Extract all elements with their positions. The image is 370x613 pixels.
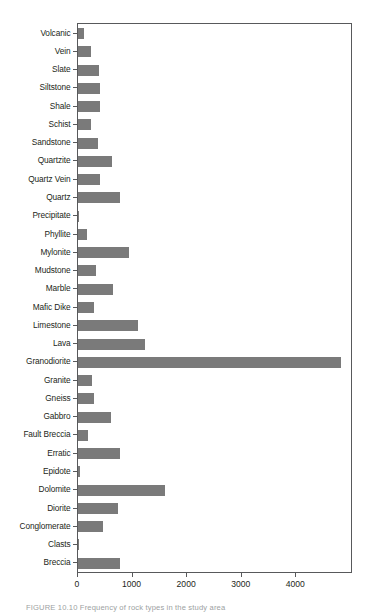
- y-axis-tick-mark: [73, 562, 77, 563]
- y-axis-tick-quartz: Quartz: [0, 188, 77, 206]
- y-axis-tick-label: Schist: [49, 120, 71, 129]
- bar-row: [78, 481, 352, 499]
- y-axis-tick-label: Dolomite: [39, 485, 71, 494]
- bar-quartz: [78, 192, 120, 203]
- y-axis-tick-mark: [73, 215, 77, 216]
- y-axis-tick-mark: [73, 234, 77, 235]
- y-axis-tick-shale: Shale: [0, 97, 77, 115]
- y-axis-tick-volcanic: Volcanic: [0, 24, 77, 42]
- x-axis-tick-label: 4000: [286, 579, 305, 589]
- y-axis-tick-quartzite: Quartzite: [0, 152, 77, 170]
- y-axis-tick-mark: [73, 544, 77, 545]
- y-axis-tick-label: Gabbro: [43, 412, 70, 421]
- y-axis-tick-schist: Schist: [0, 115, 77, 133]
- bar-lava: [78, 339, 145, 350]
- y-axis-tick-mark: [73, 124, 77, 125]
- bar-row: [78, 499, 352, 517]
- x-axis-tick-mark: [241, 573, 242, 577]
- bar-row: [78, 225, 352, 243]
- y-axis-tick-mark: [73, 307, 77, 308]
- bar-breccia: [78, 558, 120, 569]
- y-axis-tick-dolomite: Dolomite: [0, 481, 77, 499]
- y-axis-tick-label: Quartz Vein: [28, 175, 70, 184]
- y-axis-tick-label: Sandstone: [32, 138, 71, 147]
- y-axis: VolcanicVeinSlateSiltstoneShaleSchistSan…: [0, 24, 77, 572]
- bar-row: [78, 462, 352, 480]
- x-axis-tick-mark: [132, 573, 133, 577]
- bar-row: [78, 79, 352, 97]
- x-axis-tick-label: 1000: [122, 579, 141, 589]
- y-axis-tick-precipitate: Precipitate: [0, 207, 77, 225]
- bar-row: [78, 24, 352, 42]
- y-axis-tick-sandstone: Sandstone: [0, 134, 77, 152]
- bar-row: [78, 115, 352, 133]
- y-axis-tick-mark: [73, 361, 77, 362]
- y-axis-tick-label: Shale: [50, 102, 71, 111]
- y-axis-tick-label: Clasts: [48, 540, 70, 549]
- bar-row: [78, 97, 352, 115]
- y-axis-tick-label: Diorite: [47, 504, 70, 513]
- y-axis-tick-slate: Slate: [0, 61, 77, 79]
- bar-slate: [78, 65, 99, 76]
- y-axis-tick-gabbro: Gabbro: [0, 408, 77, 426]
- y-axis-tick-mylonite: Mylonite: [0, 243, 77, 261]
- bar-sandstone: [78, 138, 98, 149]
- bar-epidote: [78, 466, 80, 477]
- y-axis-tick-clasts: Clasts: [0, 535, 77, 553]
- y-axis-tick-breccia: Breccia: [0, 554, 77, 572]
- bar-row: [78, 389, 352, 407]
- y-axis-tick-label: Conglomerate: [20, 522, 71, 531]
- y-axis-tick-mark: [73, 416, 77, 417]
- y-axis-tick-mark: [73, 526, 77, 527]
- y-axis-tick-label: Fault Breccia: [23, 430, 70, 439]
- bar-row: [78, 426, 352, 444]
- bar-row: [78, 517, 352, 535]
- y-axis-tick-label: Volcanic: [40, 29, 70, 38]
- bar-row: [78, 444, 352, 462]
- y-axis-tick-mark: [73, 160, 77, 161]
- bar-row: [78, 298, 352, 316]
- y-axis-tick-epidote: Epidote: [0, 462, 77, 480]
- bar-quartzite: [78, 156, 112, 167]
- y-axis-tick-label: Lava: [53, 339, 71, 348]
- bar-erratic: [78, 448, 120, 459]
- y-axis-tick-label: Slate: [52, 65, 70, 74]
- y-axis-tick-mark: [73, 434, 77, 435]
- y-axis-tick-label: Mylonite: [40, 248, 70, 257]
- bar-conglomerate: [78, 521, 103, 532]
- x-axis-tick-label: 3000: [231, 579, 250, 589]
- x-axis-tick-label: 0: [75, 579, 80, 589]
- y-axis-tick-label: Epidote: [43, 467, 70, 476]
- y-axis-tick-lava: Lava: [0, 335, 77, 353]
- bar-row: [78, 188, 352, 206]
- y-axis-tick-mark: [73, 380, 77, 381]
- y-axis-tick-label: Granodiorite: [26, 357, 70, 366]
- bar-marble: [78, 284, 113, 295]
- y-axis-tick-granodiorite: Granodiorite: [0, 353, 77, 371]
- bar-quartz-vein: [78, 174, 100, 185]
- y-axis-tick-limestone: Limestone: [0, 316, 77, 334]
- bar-volcanic: [78, 28, 84, 39]
- x-axis-tick-mark: [186, 573, 187, 577]
- bar-gabbro: [78, 412, 111, 423]
- y-axis-tick-mark: [73, 453, 77, 454]
- x-axis-tick-mark: [295, 573, 296, 577]
- bar-mafic-dike: [78, 302, 94, 313]
- y-axis-tick-label: Siltstone: [40, 83, 71, 92]
- y-axis-tick-label: Mafic Dike: [33, 303, 71, 312]
- bar-row: [78, 243, 352, 261]
- x-axis-tick-mark: [77, 573, 78, 577]
- y-axis-tick-mark: [73, 343, 77, 344]
- y-axis-tick-label: Vein: [55, 47, 71, 56]
- y-axis-tick-phyllite: Phyllite: [0, 225, 77, 243]
- y-axis-tick-fault-breccia: Fault Breccia: [0, 426, 77, 444]
- y-axis-tick-erratic: Erratic: [0, 444, 77, 462]
- y-axis-tick-mark: [73, 179, 77, 180]
- y-axis-tick-mark: [73, 508, 77, 509]
- y-axis-tick-label: Precipitate: [32, 211, 70, 220]
- y-axis-tick-mark: [73, 87, 77, 88]
- y-axis-tick-label: Mudstone: [35, 266, 71, 275]
- y-axis-tick-label: Phyllite: [45, 230, 71, 239]
- y-axis-tick-label: Quartz: [46, 193, 70, 202]
- bar-diorite: [78, 503, 118, 514]
